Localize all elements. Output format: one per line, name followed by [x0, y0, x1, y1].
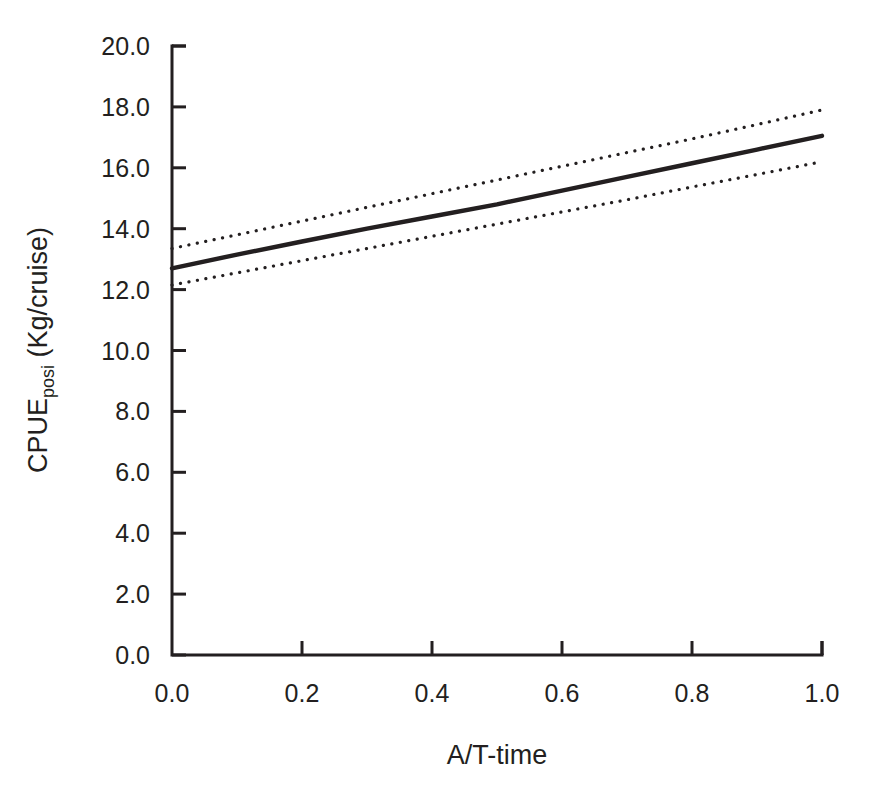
y-tick-label-0.0: 0.0 — [115, 641, 150, 669]
y-axis-title-subscript: posi — [38, 365, 58, 398]
y-tick-label-10.0: 10.0 — [101, 337, 150, 365]
y-tick-label-8.0: 8.0 — [115, 397, 150, 425]
y-tick-label-4.0: 4.0 — [115, 519, 150, 547]
y-axis-title-main: CPUE — [23, 398, 53, 473]
y-axis-title-tail: (Kg/cruise) — [23, 227, 53, 365]
x-tick-label-0.2: 0.2 — [285, 679, 320, 707]
y-tick-label-2.0: 2.0 — [115, 580, 150, 608]
y-tick-label-20.0: 20.0 — [101, 32, 150, 60]
y-tick-label-12.0: 12.0 — [101, 276, 150, 304]
x-tick-label-0.8: 0.8 — [675, 679, 710, 707]
x-tick-label-0.4: 0.4 — [415, 679, 450, 707]
x-axis-title: A/T-time — [447, 740, 548, 770]
y-tick-label-16.0: 16.0 — [101, 154, 150, 182]
x-tick-label-0.6: 0.6 — [545, 679, 580, 707]
y-tick-label-6.0: 6.0 — [115, 458, 150, 486]
y-tick-label-14.0: 14.0 — [101, 215, 150, 243]
chart-figure: 0.02.04.06.08.010.012.014.016.018.020.0 … — [0, 0, 877, 799]
x-tick-label-0.0: 0.0 — [155, 679, 190, 707]
chart-canvas: 0.02.04.06.08.010.012.014.016.018.020.0 … — [0, 0, 877, 799]
y-axis-title: CPUEposi (Kg/cruise) — [23, 227, 58, 473]
x-tick-label-1.0: 1.0 — [805, 679, 840, 707]
y-tick-label-18.0: 18.0 — [101, 93, 150, 121]
